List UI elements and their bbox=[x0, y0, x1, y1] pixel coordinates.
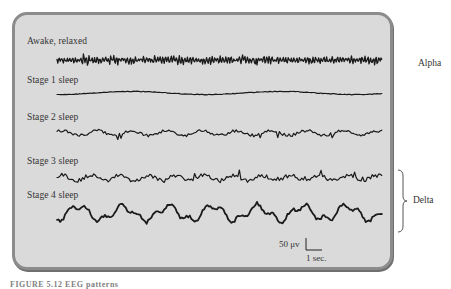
delta-group-label: Delta bbox=[413, 195, 434, 205]
eeg-trace-0 bbox=[57, 54, 382, 65]
scale-bar-icon bbox=[306, 238, 322, 250]
scale-time-label: 1 sec. bbox=[306, 253, 327, 263]
stage-label-awake: Awake, relaxed bbox=[27, 36, 87, 46]
stage-label-stage3: Stage 3 sleep bbox=[27, 156, 78, 166]
eeg-trace-1 bbox=[57, 91, 382, 95]
scale-voltage-label: 50 μv bbox=[279, 239, 300, 249]
stage-label-stage4: Stage 4 sleep bbox=[27, 190, 78, 200]
figure-caption: FIGURE 5.12 EEG patterns bbox=[10, 280, 118, 289]
stage-label-stage1: Stage 1 sleep bbox=[27, 75, 78, 85]
eeg-trace-4 bbox=[57, 202, 382, 224]
alpha-group-label: Alpha bbox=[418, 58, 441, 68]
stage-label-stage2: Stage 2 sleep bbox=[27, 112, 78, 122]
brace-icon bbox=[398, 170, 407, 232]
eeg-trace-3 bbox=[57, 170, 382, 183]
eeg-trace-2 bbox=[57, 129, 382, 139]
